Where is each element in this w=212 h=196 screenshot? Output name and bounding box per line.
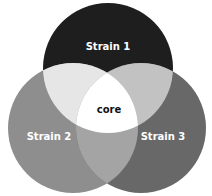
strain-1-label: Strain 1 — [86, 41, 131, 52]
venn-svg: Strain 1 core Strain 2 Strain 3 — [0, 0, 212, 196]
venn-diagram: Strain 1 core Strain 2 Strain 3 — [0, 0, 212, 196]
strain-2-label: Strain 2 — [27, 131, 72, 142]
strain-3-label: Strain 3 — [141, 131, 186, 142]
core-label: core — [97, 104, 122, 115]
